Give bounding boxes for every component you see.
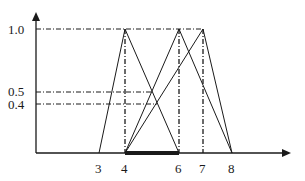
axes: [36, 18, 284, 153]
y-label-0-4: 0.4: [8, 97, 25, 112]
y-label-1-0: 1.0: [8, 22, 24, 37]
x-label-8: 8: [228, 161, 235, 176]
x-label-6: 6: [175, 161, 182, 176]
horizontal-guides: [36, 29, 203, 104]
triangles: [99, 29, 232, 153]
y-axis-arrow-icon: [32, 12, 40, 21]
triangle-a: [99, 29, 179, 153]
x-label-4: 4: [121, 161, 128, 176]
x-label-3: 3: [95, 161, 102, 176]
membership-diagram: 1.0 0.5 0.4 3 4 6 7 8: [0, 0, 305, 181]
x-label-7: 7: [199, 161, 206, 176]
x-axis-arrow-icon: [282, 149, 291, 157]
